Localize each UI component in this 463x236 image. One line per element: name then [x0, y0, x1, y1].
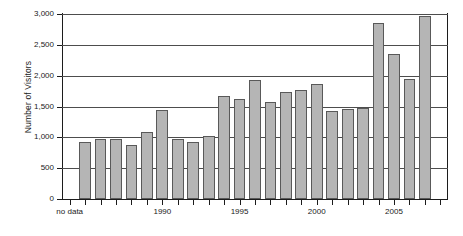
x-axis-tick-mark	[255, 200, 256, 205]
bar-chart: Number of Visitors 3,0002,5002,0001,5001…	[0, 0, 463, 236]
x-axis-tick-mark	[224, 200, 225, 205]
x-axis-tick-mark	[147, 200, 148, 205]
bar	[280, 92, 292, 199]
x-axis-tick-mark	[348, 200, 349, 205]
bar	[388, 54, 400, 199]
bar	[311, 84, 323, 199]
bar	[203, 136, 215, 199]
bar	[141, 132, 153, 199]
x-axis-tick-mark	[440, 200, 441, 205]
x-axis-tick-mark	[162, 200, 163, 205]
y-axis-tick-label: 0	[8, 194, 54, 203]
y-axis-tick-label: 500	[8, 163, 54, 172]
bar	[404, 79, 416, 199]
x-axis-tick-mark	[101, 200, 102, 205]
x-axis-tick-mark	[240, 200, 241, 205]
bars-layer	[62, 14, 448, 199]
x-axis-tick-label: 2000	[308, 207, 326, 216]
x-axis-tick-mark	[425, 200, 426, 205]
x-axis-tick-mark	[116, 200, 117, 205]
x-axis-tick-mark	[131, 200, 132, 205]
x-axis-tick-mark	[332, 200, 333, 205]
bar	[95, 139, 107, 199]
bar	[172, 139, 184, 199]
y-axis-tick-label: 3,000	[8, 9, 54, 18]
x-axis-tick-label: 1995	[231, 207, 249, 216]
bar	[79, 142, 91, 199]
bar	[265, 102, 277, 199]
x-axis-tick-mark	[70, 200, 71, 205]
x-axis-tick-mark	[394, 200, 395, 205]
y-axis-tick-label: 2,500	[8, 40, 54, 49]
x-axis-tick-label: no data	[56, 207, 83, 216]
x-axis-tick-mark	[317, 200, 318, 205]
x-axis-tick-mark	[193, 200, 194, 205]
bar	[126, 145, 138, 199]
bar	[234, 99, 246, 199]
x-axis-tick-label: 2005	[385, 207, 403, 216]
x-axis-tick-mark	[409, 200, 410, 205]
y-axis-tick-label: 1,000	[8, 132, 54, 141]
bar	[110, 139, 122, 199]
bar	[156, 110, 168, 199]
x-axis-tick-mark	[270, 200, 271, 205]
bar	[357, 108, 369, 199]
bar	[419, 16, 431, 199]
x-axis-tick-mark	[286, 200, 287, 205]
bar	[187, 142, 199, 199]
bar	[218, 96, 230, 199]
x-axis-tick-mark	[209, 200, 210, 205]
bar	[295, 90, 307, 199]
bar	[342, 109, 354, 199]
bar	[326, 111, 338, 199]
x-axis-tick-mark	[178, 200, 179, 205]
y-axis-tick-label: 1,500	[8, 102, 54, 111]
x-axis-tick-mark	[379, 200, 380, 205]
x-axis-tick-mark	[85, 200, 86, 205]
x-axis-tick-mark	[301, 200, 302, 205]
bar	[373, 23, 385, 199]
x-axis-tick-mark	[363, 200, 364, 205]
x-axis-tick-label: 1990	[153, 207, 171, 216]
y-axis-tick-label: 2,000	[8, 71, 54, 80]
bar	[249, 80, 261, 199]
